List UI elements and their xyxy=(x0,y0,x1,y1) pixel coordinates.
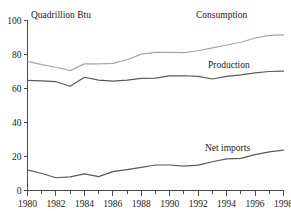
series-label-production: Production xyxy=(208,60,250,70)
series-label-net-imports: Net imports xyxy=(205,143,250,153)
y-axis-title: Quadrillion Btu xyxy=(31,10,91,20)
series-label-consumption: Consumption xyxy=(196,10,247,20)
x-tick-label: 1984 xyxy=(75,199,94,209)
y-axis-tick-labels: 020406080100 xyxy=(7,16,22,196)
x-tick-label: 1988 xyxy=(132,199,151,209)
x-tick-label: 1986 xyxy=(103,199,122,209)
x-axis-ticks xyxy=(28,191,284,196)
y-tick-label: 20 xyxy=(12,152,22,162)
y-tick-label: 40 xyxy=(12,118,22,128)
y-axis-ticks xyxy=(24,21,28,191)
y-tick-label: 100 xyxy=(7,16,22,26)
y-tick-label: 0 xyxy=(17,186,22,196)
energy-line-chart: Quadrillion Btu 020406080100 19801982198… xyxy=(0,0,291,211)
y-tick-label: 60 xyxy=(12,84,22,94)
x-tick-label: 1982 xyxy=(46,199,65,209)
series-line-production xyxy=(28,71,284,86)
y-tick-label: 80 xyxy=(12,50,22,60)
x-axis-tick-labels: 1980198219841986198819901992199419961998 xyxy=(18,199,291,209)
x-tick-label: 1980 xyxy=(18,199,37,209)
series-line-net-imports xyxy=(28,150,284,178)
chart-container: Quadrillion Btu 020406080100 19801982198… xyxy=(0,0,291,211)
x-tick-label: 1998 xyxy=(274,199,291,209)
x-tick-label: 1994 xyxy=(217,199,236,209)
series-lines xyxy=(28,35,284,178)
series-annotations: ConsumptionProductionNet imports xyxy=(196,10,250,153)
x-tick-label: 1996 xyxy=(246,199,265,209)
x-tick-label: 1990 xyxy=(160,199,179,209)
x-tick-label: 1992 xyxy=(189,199,208,209)
